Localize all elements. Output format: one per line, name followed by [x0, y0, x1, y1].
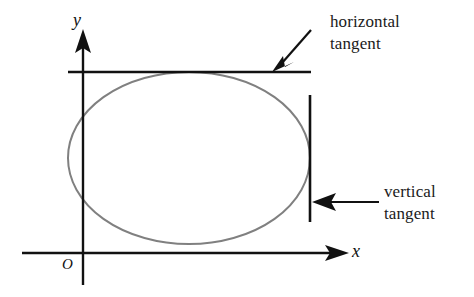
vertical-tangent-label: vertical tangent — [384, 181, 436, 225]
horizontal-tangent-label-line1: horizontal — [330, 11, 400, 33]
tangent-lines-figure: horizontal tangent vertical tangent x y … — [0, 0, 474, 297]
horizontal-tangent-label: horizontal tangent — [330, 11, 400, 55]
horizontal-tangent-arrowhead — [272, 56, 294, 72]
figure-canvas — [0, 0, 474, 297]
x-axis-label: x — [352, 241, 360, 262]
y-axis-label: y — [73, 10, 81, 31]
ellipse-curve — [68, 72, 310, 244]
vertical-tangent-label-line2: tangent — [384, 203, 436, 225]
horizontal-tangent-arrow-shaft — [282, 30, 311, 63]
vertical-tangent-label-line1: vertical — [384, 181, 436, 203]
horizontal-tangent-label-line2: tangent — [330, 33, 400, 55]
origin-label: O — [62, 256, 73, 273]
